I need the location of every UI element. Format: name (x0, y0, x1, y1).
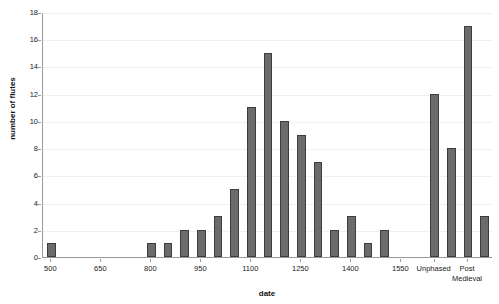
bar (430, 94, 439, 257)
bar (464, 26, 473, 257)
y-axis: 024681012141618 (0, 13, 38, 258)
bar (264, 53, 273, 257)
bar (164, 243, 173, 257)
bar (347, 216, 356, 257)
y-tick-mark (38, 95, 41, 96)
bar (480, 216, 489, 257)
y-tick-label: 6 (4, 172, 38, 180)
x-tick-mark (467, 259, 468, 262)
bar-chart: 024681012141618 number of flutes 5006508… (0, 0, 499, 304)
bar (180, 230, 189, 257)
bar (147, 243, 156, 257)
bar (280, 121, 289, 257)
bar (47, 243, 56, 257)
y-tick-mark (38, 176, 41, 177)
x-tick-mark (50, 259, 51, 262)
bar (297, 135, 306, 258)
y-tick-mark (38, 122, 41, 123)
bar (447, 148, 456, 257)
y-axis-title: number of flutes (8, 59, 17, 159)
y-tick-label: 16 (4, 36, 38, 44)
plot-area (42, 13, 492, 258)
x-tick-mark (100, 259, 101, 262)
bar (314, 162, 323, 257)
y-tick-mark (38, 204, 41, 205)
bar (247, 107, 256, 257)
y-tick-mark (38, 149, 41, 150)
y-tick-mark (38, 258, 41, 259)
bars-layer (43, 13, 492, 257)
x-tick-mark (200, 259, 201, 262)
x-axis-title: date (42, 289, 492, 298)
y-tick-mark (38, 67, 41, 68)
y-tick-label: 2 (4, 227, 38, 235)
bar (214, 216, 223, 257)
y-tick-label: 18 (4, 9, 38, 17)
x-tick-mark (300, 259, 301, 262)
x-tick-mark (150, 259, 151, 262)
y-tick-mark (38, 231, 41, 232)
x-tick-mark (250, 259, 251, 262)
x-tick-mark (400, 259, 401, 262)
y-tick-label: 0 (4, 254, 38, 262)
bar (380, 230, 389, 257)
bar (330, 230, 339, 257)
bar (230, 189, 239, 257)
x-axis: 5006508009501100125014001550UnphasedPost… (42, 259, 492, 291)
bar (364, 243, 373, 257)
x-tick-mark (434, 259, 435, 262)
y-tick-mark (38, 13, 41, 14)
y-tick-label: 4 (4, 200, 38, 208)
x-tick-mark (350, 259, 351, 262)
y-tick-mark (38, 40, 41, 41)
x-tick-label: PostMedieval (432, 264, 499, 283)
bar (197, 230, 206, 257)
